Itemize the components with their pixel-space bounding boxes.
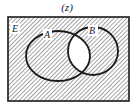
set-b-label: B	[89, 25, 95, 36]
universe-label: E	[11, 23, 18, 34]
set-a-label: A	[43, 29, 51, 40]
venn-diagram: E A B	[0, 0, 134, 109]
